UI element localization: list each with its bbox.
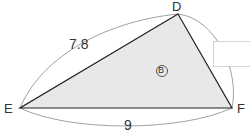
vertex-label-e: E — [4, 102, 13, 115]
triangle-def — [20, 14, 232, 108]
answer-box[interactable] — [213, 41, 250, 67]
vertex-label-f: F — [237, 102, 245, 115]
side-label-ef: 9 — [124, 118, 132, 132]
region-label: B — [158, 66, 164, 75]
vertex-label-d: D — [172, 0, 181, 13]
side-label-ed: 7.8 — [69, 37, 88, 51]
